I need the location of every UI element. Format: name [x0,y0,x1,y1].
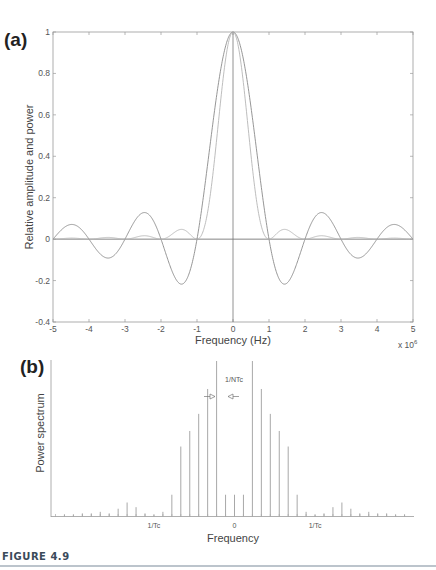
panel-a-x-axis-label: Frequency (Hz) [195,334,271,346]
x-tick-label: -5 [49,324,57,334]
x-tick-label: 4 [375,324,380,334]
panel-b: (b) 1/Tc01/Tc 1/NTc Frequency Power spec… [20,356,414,544]
y-tick-label: 1 [45,27,50,37]
figure: (a) -5-4-3-2-1012345 -0.4-0.200.20.40.60… [0,0,436,570]
panel-a: (a) -5-4-3-2-1012345 -0.4-0.200.20.40.60… [4,27,418,350]
x-tick-label: 1 [267,324,272,334]
x-multiplier-exponent: 6 [414,339,418,345]
panel-a-y-axis-label: Relative amplitude and power [23,104,35,249]
x-tick-label: -4 [85,324,93,334]
y-tick-label: -0.4 [35,317,50,327]
panel-b-tick-annotations: 1/Tc01/Tc [148,522,322,529]
figure-caption: FIGURE 4.9 [2,551,70,562]
x-tick-label: -3 [121,324,129,334]
y-tick-label: 0.6 [38,110,50,120]
x-multiplier-base: x 10 [398,340,414,350]
y-tick-label: 0 [45,234,50,244]
panel-a-x-multiplier: x 106 [398,339,418,350]
y-tick-label: 0.4 [38,151,50,161]
x-tick-label: 5 [411,324,416,334]
panel-b-label: (b) [20,356,44,377]
panel-b-y-axis-label: Power spectrum [34,393,46,472]
panel-a-reference-lines [53,32,413,322]
x-tick-label: 0 [231,324,236,334]
y-tick-label: 0.8 [38,68,50,78]
panel-a-label: (a) [4,29,27,50]
x-tick-label: 2 [303,324,308,334]
panel-a-x-ticks: -5-4-3-2-1012345 [49,32,415,334]
x-tick-label: -2 [157,324,165,334]
panel-b-x-axis-label: Frequency [207,532,259,544]
x-tick-label: -1 [193,324,201,334]
panel-b-spectral-lines [64,361,404,517]
spacing-annotation: 1/NTc [225,376,243,383]
spacing-arrow-right [228,394,239,399]
x-tick-label: 3 [339,324,344,334]
x-tick-annotation: 1/Tc [148,522,161,529]
x-tick-annotation: 1/Tc [309,522,322,529]
spacing-arrow-left [204,394,215,399]
x-tick-annotation: 0 [233,522,237,529]
y-tick-label: -0.2 [35,276,50,286]
y-tick-label: 0.2 [38,193,50,203]
